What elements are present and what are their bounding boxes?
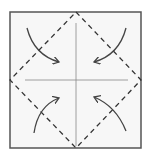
blintz-fold-diagram xyxy=(0,0,148,156)
